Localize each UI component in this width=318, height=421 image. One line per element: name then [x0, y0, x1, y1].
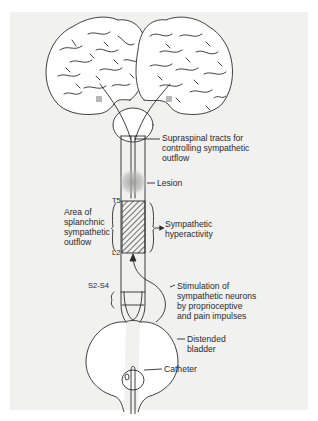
autonomic-dysreflexia-diagram	[0, 0, 318, 421]
label-distended-bladder: Distended bladder	[187, 334, 226, 354]
upward-arrow-icon	[130, 254, 136, 261]
label-t5: T5	[112, 196, 121, 206]
label-lesion: Lesion	[157, 178, 182, 188]
label-sympathetic-hyperactivity: Sympathetic hyperactivity	[165, 219, 213, 239]
conus-medullaris	[124, 292, 142, 320]
label-l2: L2	[112, 248, 120, 258]
afferent-pathway	[133, 258, 165, 322]
label-catheter: Catheter	[164, 364, 197, 374]
splanchnic-outflow-region	[122, 201, 145, 253]
label-supraspinal-tracts: Supraspinal tracts for controlling sympa…	[162, 133, 249, 163]
label-stimulation: Stimulation of sympathetic neurons by pr…	[177, 281, 256, 321]
label-area-splanchnic: Area of splanchnic sympathetic outflow	[64, 207, 110, 247]
catheter-balloon	[122, 370, 144, 390]
leader-stimulation	[170, 285, 175, 287]
label-s2-s4: S2-S4	[88, 281, 109, 291]
right-brain-hemisphere-icon	[136, 17, 233, 114]
lesion-area	[119, 169, 147, 195]
